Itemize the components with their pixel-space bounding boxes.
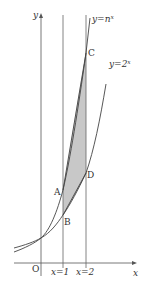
x-equals-2-label: x=2	[76, 267, 95, 277]
x-axis-label: x	[133, 268, 138, 278]
curve-2-power-x-label: y=2x	[108, 58, 131, 69]
origin-label: O	[32, 264, 39, 274]
point-B-label: B	[64, 217, 71, 227]
y-axis-label: y	[32, 10, 39, 20]
x-axis-arrow-icon	[132, 261, 137, 265]
point-C-label: C	[88, 48, 95, 58]
curve-2-power-x	[14, 84, 106, 248]
point-D-label: D	[87, 170, 94, 180]
curve-n-power-x-label: y=nx	[91, 13, 114, 24]
x-equals-1-label: x=1	[51, 267, 69, 277]
function-graph: y x O x=1 x=2 y=nx y=2x C D A B	[0, 0, 148, 297]
y-axis-arrow-icon	[39, 13, 43, 18]
point-A-label: A	[53, 187, 61, 197]
